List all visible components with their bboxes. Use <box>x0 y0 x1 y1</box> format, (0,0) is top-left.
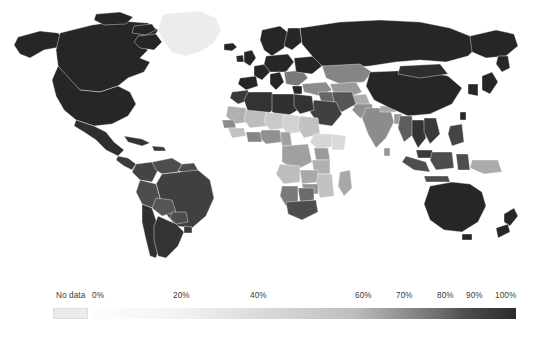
region-uruguay[interactable] <box>184 226 192 233</box>
region-senegal[interactable] <box>222 120 236 128</box>
choropleth-figure: No data 0% 20% 40% 60% 70% 80% 90% 100% <box>0 0 534 338</box>
legend-gradient-bar[interactable] <box>92 308 516 319</box>
legend-tick-20: 20% <box>173 291 190 301</box>
region-indonesia-java[interactable] <box>424 176 450 182</box>
region-indonesia-sulawesi[interactable] <box>456 154 470 170</box>
legend-tick-0: 0% <box>92 291 104 301</box>
legend-tick-60: 60% <box>355 291 372 301</box>
legend-tick-labels: No data 0% 20% 40% 60% 70% 80% 90% 100% <box>0 291 534 303</box>
region-zambia[interactable] <box>300 170 318 184</box>
legend-segment-40-60[interactable] <box>250 308 355 319</box>
legend-segment-80-90[interactable] <box>437 308 466 319</box>
legend-segment-0-20[interactable] <box>92 308 173 319</box>
region-sri-lanka[interactable] <box>384 148 390 156</box>
legend-tick-70: 70% <box>396 291 413 301</box>
region-cameroon[interactable] <box>280 132 292 146</box>
region-ghana[interactable] <box>246 132 262 142</box>
region-ireland[interactable] <box>236 55 244 62</box>
legend-segment-90-100[interactable] <box>466 308 516 319</box>
legend-no-data-label: No data <box>56 291 85 301</box>
region-greece[interactable] <box>292 86 302 94</box>
legend-tick-40: 40% <box>250 291 267 301</box>
region-somalia[interactable] <box>332 134 346 150</box>
legend-segment-70-80[interactable] <box>396 308 437 319</box>
legend-no-data-swatch[interactable] <box>53 308 88 319</box>
region-kenya[interactable] <box>314 148 330 160</box>
region-taiwan[interactable] <box>460 112 466 120</box>
legend-tick-90: 90% <box>466 291 483 301</box>
region-korea[interactable] <box>468 84 478 96</box>
region-tasmania[interactable] <box>462 234 472 240</box>
legend-segment-20-40[interactable] <box>173 308 250 319</box>
legend: No data 0% 20% 40% 60% 70% 80% 90% 100% <box>0 272 534 338</box>
legend-tick-100: 100% <box>495 291 516 301</box>
legend-tick-80: 80% <box>437 291 454 301</box>
world-map[interactable] <box>0 0 534 272</box>
region-botswana[interactable] <box>298 188 314 202</box>
world-map-svg[interactable] <box>0 0 534 272</box>
legend-segment-60-70[interactable] <box>355 308 396 319</box>
